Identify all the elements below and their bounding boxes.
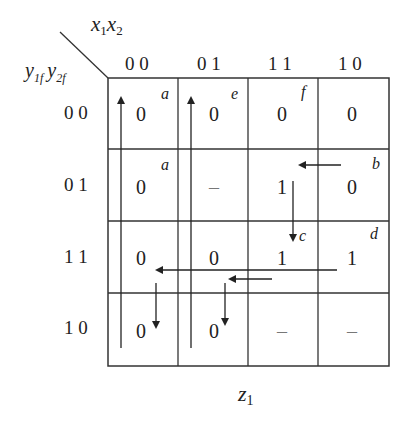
cell-r0-c3: 0 [337,104,367,124]
cell-r0-c2: 0 [267,104,297,124]
cell-r1-c3: 0 [337,177,367,197]
state-label-b-r1c3: b [372,156,380,172]
cell-r1-c0: 0 [126,177,156,197]
output-variable-label: z1 [238,383,254,405]
cell-r3-c1: 0 [199,321,229,341]
row-label-00: 0 0 [64,103,88,122]
cell-r2-c3: 1 [337,248,367,268]
row-variable-label: y1fy2f [25,60,65,80]
cell-r2-c2: 1 [267,248,297,268]
cell-r0-c1: 0 [199,104,229,124]
column-label-00: 0 0 [125,54,149,73]
cell-r1-c1: – [199,177,229,197]
state-label-a-r1c0: a [161,157,169,173]
column-label-11: 1 1 [268,54,292,73]
state-label-f-r0c2: f [301,84,305,100]
cell-r0-c0: 0 [126,104,156,124]
state-label-e-r0c1: e [231,86,238,102]
cell-r1-c2: 1 [267,177,297,197]
cell-r2-c0: 0 [126,248,156,268]
state-label-a-r0c0: a [161,86,169,102]
transition-arrows [121,98,341,348]
state-label-d-r2c3: d [370,226,378,242]
row-label-11: 1 1 [64,247,88,266]
cell-r3-c0: 0 [126,321,156,341]
row-label-01: 0 1 [64,175,88,194]
column-label-01: 0 1 [197,54,221,73]
state-label-c-r2c2: c [299,228,306,244]
cell-r2-c1: 0 [199,248,229,268]
column-variable-label: x1x2 [91,14,123,35]
cell-r3-c2: – [267,321,297,341]
corner-diagonal [60,32,108,78]
cell-r3-c3: – [337,321,367,341]
row-label-10: 1 0 [64,318,88,337]
column-label-10: 1 0 [338,54,362,73]
